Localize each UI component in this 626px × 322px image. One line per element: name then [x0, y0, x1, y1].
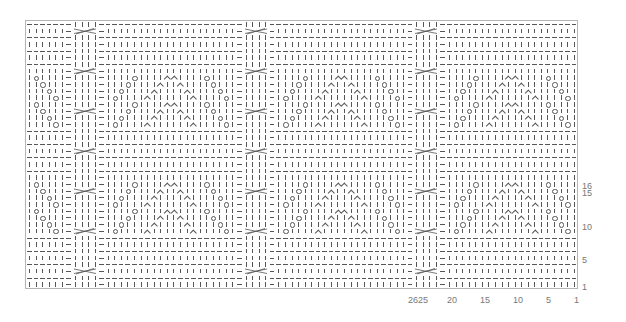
cable-cross-icon — [72, 148, 98, 155]
knit-symbol — [571, 54, 578, 61]
stitch-number: 1 — [574, 295, 579, 305]
chart-row — [26, 261, 577, 268]
knit-symbol — [571, 201, 578, 208]
chart-row — [26, 161, 577, 168]
chart-row — [26, 168, 577, 175]
knit-symbol — [571, 121, 578, 128]
cable-cross-icon — [243, 188, 269, 195]
chart-row — [26, 61, 577, 68]
chart-row — [26, 28, 577, 35]
cable-cross-icon — [72, 108, 98, 115]
knit-symbol — [571, 221, 578, 228]
stitch-number: 10 — [513, 295, 523, 305]
cable-cross-icon — [413, 148, 439, 155]
stitch-number: 25 — [418, 295, 428, 305]
row-number: 5 — [582, 255, 587, 265]
cable-cross-icon — [72, 268, 98, 275]
knit-symbol — [571, 148, 578, 155]
chart-row — [26, 235, 577, 242]
purl-symbol — [571, 48, 578, 55]
knit-symbol — [571, 81, 578, 88]
chart-row — [26, 128, 577, 135]
chart-row — [26, 88, 577, 95]
chart-row — [26, 228, 577, 235]
knit-symbol — [571, 41, 578, 48]
knit-symbol — [571, 74, 578, 81]
purl-symbol — [571, 248, 578, 255]
chart-row — [26, 154, 577, 161]
chart-row — [26, 194, 577, 201]
knit-symbol — [571, 208, 578, 215]
knit-symbol — [571, 241, 578, 248]
purl-symbol — [571, 154, 578, 161]
stitch-number: 20 — [447, 295, 457, 305]
chart-row — [26, 188, 577, 195]
chart-row — [26, 148, 577, 155]
chart-row — [26, 134, 577, 141]
knit-symbol — [571, 181, 578, 188]
cable-cross-icon — [413, 268, 439, 275]
chart-row — [26, 121, 577, 128]
chart-row — [26, 74, 577, 81]
cable-cross-icon — [72, 68, 98, 75]
chart-row — [26, 94, 577, 101]
knit-symbol — [571, 28, 578, 35]
knit-symbol — [571, 268, 578, 275]
cable-cross-icon — [72, 188, 98, 195]
row-number: 16 — [582, 181, 592, 191]
knit-symbol — [571, 228, 578, 235]
knit-symbol — [571, 174, 578, 181]
knit-symbol — [571, 281, 578, 288]
chart-row — [26, 248, 577, 255]
chart-row — [26, 221, 577, 228]
cable-cross-icon — [413, 68, 439, 75]
knit-symbol — [571, 108, 578, 115]
stitch-number: 15 — [480, 295, 490, 305]
chart-row — [26, 174, 577, 181]
chart-row — [26, 281, 577, 288]
purl-symbol — [571, 235, 578, 242]
chart-row — [26, 201, 577, 208]
chart-row — [26, 241, 577, 248]
cable-cross-icon — [243, 228, 269, 235]
stitch-number: 26 — [408, 295, 418, 305]
knitting-chart-grid — [25, 20, 578, 289]
purl-symbol — [571, 168, 578, 175]
cable-cross-icon — [243, 28, 269, 35]
purl-symbol — [571, 34, 578, 41]
cable-cross-icon — [413, 228, 439, 235]
row-number: 1 — [582, 282, 587, 292]
cable-cross-icon — [413, 108, 439, 115]
cable-cross-icon — [243, 68, 269, 75]
chart-row — [26, 255, 577, 262]
purl-symbol — [571, 141, 578, 148]
purl-symbol — [571, 61, 578, 68]
stitch-number: 5 — [546, 295, 551, 305]
chart-row — [26, 21, 577, 28]
row-number: 10 — [582, 222, 592, 232]
cable-cross-icon — [413, 188, 439, 195]
chart-row — [26, 141, 577, 148]
chart-row — [26, 48, 577, 55]
chart-row — [26, 114, 577, 121]
purl-symbol — [571, 275, 578, 282]
knit-symbol — [571, 255, 578, 262]
chart-row — [26, 208, 577, 215]
knit-symbol — [571, 94, 578, 101]
chart-row — [26, 181, 577, 188]
knit-symbol — [571, 68, 578, 75]
cable-cross-icon — [413, 28, 439, 35]
chart-row — [26, 214, 577, 221]
purl-symbol — [571, 21, 578, 28]
chart-row — [26, 68, 577, 75]
knit-symbol — [571, 188, 578, 195]
knit-symbol — [571, 161, 578, 168]
knit-symbol — [571, 101, 578, 108]
knit-symbol — [571, 114, 578, 121]
chart-row — [26, 41, 577, 48]
purl-symbol — [571, 261, 578, 268]
knit-symbol — [571, 194, 578, 201]
chart-row — [26, 101, 577, 108]
knit-symbol — [571, 134, 578, 141]
knit-symbol — [571, 88, 578, 95]
